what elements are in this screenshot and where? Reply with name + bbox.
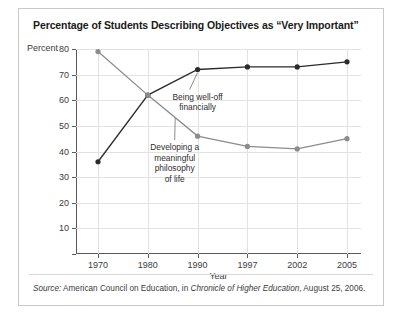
data-point-marker <box>95 49 100 54</box>
plot-area: 1020304050607080 19701980199019972002200… <box>76 49 361 254</box>
y-tick-label: 40 <box>59 147 69 157</box>
x-tick-label: 1970 <box>88 260 108 270</box>
x-axis-tick <box>148 254 149 258</box>
x-tick-label: 1990 <box>188 260 208 270</box>
data-series-lines <box>76 49 361 254</box>
data-point-marker <box>95 159 100 164</box>
data-point-marker <box>344 59 349 64</box>
x-tick-label: 2005 <box>337 260 357 270</box>
data-point-marker <box>245 144 250 149</box>
x-axis-tick <box>98 254 99 258</box>
annotation-developing-philosophy: Developing a meaningful philosophy of li… <box>139 142 211 184</box>
y-axis-tick <box>72 254 76 255</box>
source-body-1: American Council on Education, in <box>61 284 190 293</box>
data-point-marker <box>145 93 150 98</box>
y-tick-label: 60 <box>59 95 69 105</box>
chart-figure: Percentage of Students Describing Object… <box>18 8 384 306</box>
y-tick-label: 50 <box>59 121 69 131</box>
y-tick-label: 70 <box>59 70 69 80</box>
x-tick-label: 1997 <box>237 260 257 270</box>
y-tick-label: 10 <box>59 223 69 233</box>
x-axis-tick <box>297 254 298 258</box>
data-point-marker <box>195 134 200 139</box>
data-point-marker <box>245 64 250 69</box>
y-axis-title: Percent <box>27 43 58 53</box>
source-body-2: , August 25, 2006. <box>299 284 365 293</box>
y-tick-label: 20 <box>59 198 69 208</box>
x-axis-tick <box>247 254 248 258</box>
data-point-marker <box>195 67 200 72</box>
x-axis-title: Year <box>76 271 361 281</box>
y-tick-label: 30 <box>59 172 69 182</box>
source-label: Source: <box>33 284 61 293</box>
data-point-marker <box>344 136 349 141</box>
y-tick-label: 80 <box>59 44 69 54</box>
x-tick-label: 1980 <box>138 260 158 270</box>
x-tick-label: 2002 <box>287 260 307 270</box>
data-point-marker <box>295 146 300 151</box>
annotation-being-well-off: Being well-off financially <box>154 92 242 113</box>
x-axis-tick <box>347 254 348 258</box>
chart-title: Percentage of Students Describing Object… <box>33 19 359 31</box>
x-axis-tick <box>198 254 199 258</box>
source-divider <box>29 274 373 275</box>
source-note: Source: American Council on Education, i… <box>33 284 371 293</box>
data-point-marker <box>295 64 300 69</box>
source-publication: Chronicle of Higher Education <box>190 284 299 293</box>
